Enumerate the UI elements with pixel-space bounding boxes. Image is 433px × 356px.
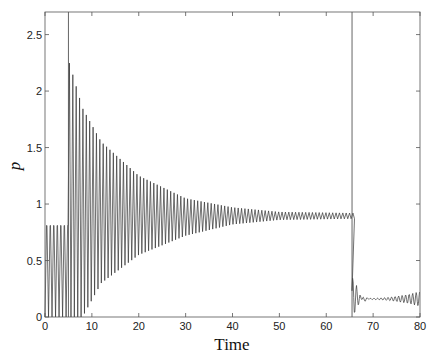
signal-line bbox=[45, 63, 420, 317]
x-axis-label: Time bbox=[214, 335, 249, 354]
y-tick-label: 1.5 bbox=[27, 142, 42, 154]
x-tick-label: 10 bbox=[86, 320, 98, 332]
y-tick-label: 2.5 bbox=[27, 29, 42, 41]
y-tick-label: 1 bbox=[36, 198, 42, 210]
x-tick-label: 50 bbox=[273, 320, 285, 332]
x-tick-label: 40 bbox=[226, 320, 238, 332]
y-tick-label: 0 bbox=[36, 311, 42, 323]
x-tick-label: 70 bbox=[367, 320, 379, 332]
event-markers bbox=[68, 12, 352, 317]
x-tick-label: 20 bbox=[133, 320, 145, 332]
x-tick-label: 30 bbox=[180, 320, 192, 332]
x-tick-label: 80 bbox=[414, 320, 426, 332]
x-tick-label: 60 bbox=[320, 320, 332, 332]
y-tick-label: 2 bbox=[36, 85, 42, 97]
chart-canvas: 01020304050607080 00.511.522.5 Time p bbox=[0, 0, 433, 356]
y-axis-label: p bbox=[5, 162, 24, 172]
y-tick-label: 0.5 bbox=[27, 255, 42, 267]
x-tick-label: 0 bbox=[42, 320, 48, 332]
